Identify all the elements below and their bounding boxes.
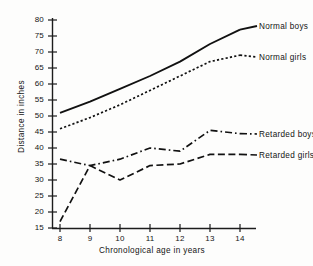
- y-axis-tick-label: 75: [28, 32, 44, 40]
- series-label-retarded-boys: Retarded boys: [259, 130, 313, 139]
- series-line-retarded-boys: [60, 130, 240, 165]
- y-axis-tick-label: 55: [28, 96, 44, 104]
- series-label-normal-boys: Normal boys: [259, 22, 308, 31]
- x-axis-tick-label: 12: [172, 235, 188, 243]
- leader-line-normal-boys: [240, 26, 257, 30]
- x-axis-tick-label: 11: [142, 235, 158, 243]
- leader-line-retarded-girls: [240, 154, 257, 155]
- y-axis-tick-label: 45: [28, 128, 44, 136]
- y-axis-tick-label: 60: [28, 80, 44, 88]
- leader-line-normal-girls: [240, 55, 257, 57]
- line-chart: 8075706560555045403530252015 89101112131…: [0, 0, 313, 266]
- y-axis-tick-label: 65: [28, 64, 44, 72]
- x-axis-tick-label: 13: [202, 235, 218, 243]
- y-axis-tick-label: 50: [28, 112, 44, 120]
- x-axis-title: Chronological age in years: [52, 246, 252, 255]
- data-series-group: [60, 30, 240, 222]
- y-axis-title: Distance in inches: [17, 42, 26, 192]
- series-leader-lines: [240, 26, 257, 155]
- series-line-normal-girls: [60, 55, 240, 129]
- y-axis-tick-label: 70: [28, 48, 44, 56]
- y-axis-tick-label: 35: [28, 160, 44, 168]
- x-axis-tick-label: 9: [82, 235, 98, 243]
- x-axis-tick-label: 8: [52, 235, 68, 243]
- y-axis-tick-label: 80: [28, 16, 44, 24]
- series-line-retarded-girls: [60, 154, 240, 221]
- y-axis-tick-label: 20: [28, 208, 44, 216]
- series-label-normal-girls: Normal girls: [259, 53, 306, 62]
- x-axis-tick-label: 14: [232, 235, 248, 243]
- axes: [48, 18, 256, 232]
- y-axis-tick-label: 30: [28, 176, 44, 184]
- y-axis-tick-label: 15: [28, 224, 44, 232]
- series-line-normal-boys: [60, 30, 240, 113]
- y-axis-tick-label: 25: [28, 192, 44, 200]
- y-axis-tick-label: 40: [28, 144, 44, 152]
- series-label-retarded-girls: Retarded girls: [259, 151, 313, 160]
- x-axis-tick-label: 10: [112, 235, 128, 243]
